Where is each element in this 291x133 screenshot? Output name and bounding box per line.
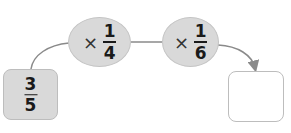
- op1-fraction: 1 4: [103, 22, 116, 62]
- connector-start-to-op1: [31, 43, 69, 69]
- answer-box[interactable]: [228, 71, 284, 122]
- multiply-icon: ×: [174, 32, 189, 53]
- start-numerator: 3: [25, 75, 37, 93]
- multiply-icon: ×: [83, 32, 98, 53]
- op2-denominator: 6: [195, 44, 207, 62]
- op1-numerator: 1: [104, 22, 116, 40]
- operation-multiply-one-fourth: × 1 4: [68, 17, 131, 67]
- start-value-box: 3 5: [3, 69, 58, 120]
- op2-numerator: 1: [195, 22, 207, 40]
- operation-multiply-one-sixth: × 1 6: [162, 17, 219, 67]
- op2-fraction: 1 6: [194, 22, 207, 62]
- start-denominator: 5: [25, 96, 37, 114]
- op1-denominator: 4: [104, 44, 116, 62]
- connector-op2-to-answer: [218, 45, 255, 68]
- start-fraction: 3 5: [24, 75, 37, 115]
